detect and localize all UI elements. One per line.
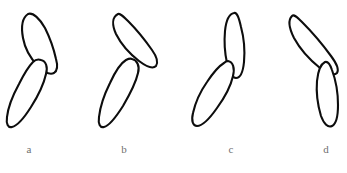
specimen-c (185, 0, 285, 140)
figure-panel: a b c d (0, 0, 347, 173)
panel-label-c: c (219, 142, 243, 156)
panel-label-d: d (314, 142, 338, 156)
specimen-a (0, 0, 100, 140)
specimen-c-drawing (185, 0, 285, 140)
specimen-d-drawing (275, 0, 347, 140)
panel-labels-row: a b c d (0, 142, 347, 162)
figure-caption (0, 163, 347, 173)
lower-lobe-outline-a (7, 60, 47, 128)
lower-lobe-outline-b (99, 59, 139, 128)
specimen-d (275, 0, 347, 140)
panel-label-a: a (17, 142, 41, 156)
specimen-b-drawing (90, 0, 190, 140)
specimen-a-drawing (0, 0, 100, 140)
panel-label-b: b (112, 142, 136, 156)
specimen-b (90, 0, 190, 140)
lower-lobe-outline-c (192, 61, 234, 126)
